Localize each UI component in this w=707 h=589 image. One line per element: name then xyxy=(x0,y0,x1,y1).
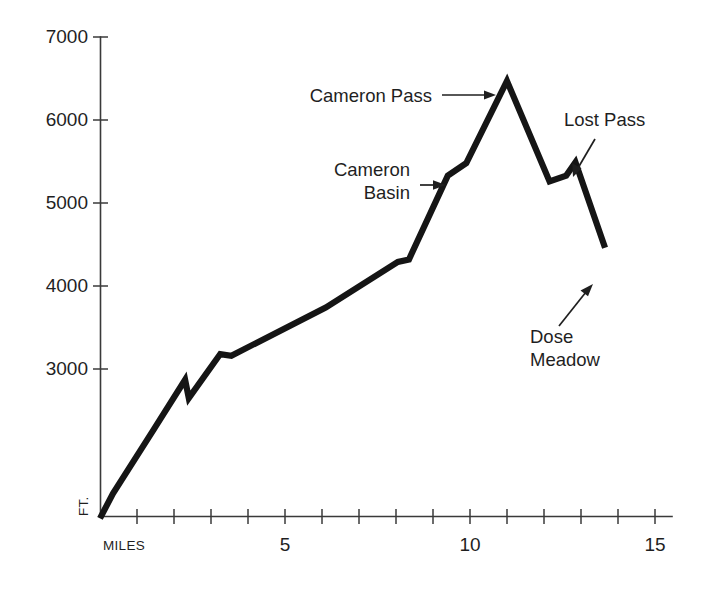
annotation-cameron-pass: Cameron Pass xyxy=(310,85,496,106)
annotation-dose-meadow: Dose Meadow xyxy=(530,284,601,370)
x-axis: 5 10 15 MILES xyxy=(100,509,672,555)
annotation-label-lost-pass: Lost Pass xyxy=(564,109,645,130)
annotation-lost-pass: Lost Pass xyxy=(564,109,645,177)
arrow-shaft-lost-pass xyxy=(578,139,595,168)
x-tick-label-15: 15 xyxy=(644,534,665,555)
annotation-label-dose-meadow-line1: Dose xyxy=(530,326,573,347)
annotation-label-cameron-basin-line1: Cameron xyxy=(334,159,410,180)
y-axis-title: FT. xyxy=(76,496,91,516)
y-tick-label-5000: 5000 xyxy=(46,192,88,213)
x-tick-label-5: 5 xyxy=(280,534,291,555)
y-tick-label-4000: 4000 xyxy=(46,275,88,296)
annotation-label-dose-meadow-line2: Meadow xyxy=(530,349,601,370)
y-tick-label-3000: 3000 xyxy=(46,358,88,379)
arrow-head-dose-meadow xyxy=(581,284,594,296)
elevation-profile-chart: 7000 6000 5000 4000 3000 FT. xyxy=(0,0,707,589)
elevation-profile-line xyxy=(100,81,605,518)
y-tick-label-6000: 6000 xyxy=(46,109,88,130)
annotation-label-cameron-pass: Cameron Pass xyxy=(310,85,432,106)
y-axis: 7000 6000 5000 4000 3000 FT. xyxy=(46,26,108,517)
annotation-cameron-basin: Cameron Basin xyxy=(334,159,446,203)
chart-canvas: 7000 6000 5000 4000 3000 FT. xyxy=(0,0,707,589)
y-tick-label-7000: 7000 xyxy=(46,26,88,47)
arrow-shaft-dose-meadow xyxy=(559,292,586,326)
arrow-head-cameron-pass xyxy=(484,91,496,100)
x-tick-label-10: 10 xyxy=(459,534,480,555)
x-axis-title: MILES xyxy=(103,538,145,553)
annotation-label-cameron-basin-line2: Basin xyxy=(364,182,410,203)
